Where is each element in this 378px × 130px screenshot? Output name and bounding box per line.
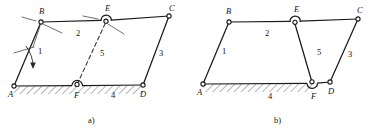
panel-b-link-label-2: 2 bbox=[265, 28, 269, 38]
panel-b-link-2-left bbox=[229, 21, 290, 22]
panel-a-annotation-E bbox=[83, 16, 124, 34]
panel-b-ground-hatch bbox=[203, 84, 312, 92]
panel-a-link-label-2: 2 bbox=[76, 28, 80, 38]
panel-a-link-label-5: 5 bbox=[100, 48, 104, 58]
panel-b: A B C D E F 1 2 3 4 5 b) bbox=[196, 4, 363, 125]
panel-a-rotation-arrow bbox=[14, 46, 36, 69]
panel-a-label-C: C bbox=[169, 3, 175, 13]
panel-b-label-F: F bbox=[310, 91, 317, 101]
panel-a-label-F: F bbox=[73, 90, 80, 100]
panel-b-pin-C bbox=[356, 17, 360, 21]
linkage-diagram-svg: A B C D E F 1 2 3 4 5 a) bbox=[0, 0, 378, 130]
panel-a-pin-D bbox=[141, 83, 145, 87]
panel-b-pin-D bbox=[328, 80, 332, 84]
panel-a-label-A: A bbox=[7, 89, 14, 99]
panel-a-link-1 bbox=[14, 22, 41, 86]
panel-a-label-B: B bbox=[39, 6, 44, 16]
panel-b-link-label-3: 3 bbox=[348, 49, 352, 59]
panel-b-link-5 bbox=[295, 24, 312, 81]
panel-a-link-label-1: 1 bbox=[38, 46, 42, 56]
panel-a-pin-F bbox=[75, 82, 79, 86]
panel-a-pin-C bbox=[167, 14, 171, 18]
panel-a-caption: a) bbox=[88, 115, 95, 125]
panel-b-link-2-right bbox=[300, 19, 358, 21]
panel-b-label-D: D bbox=[327, 86, 335, 96]
panel-b-link-label-5: 5 bbox=[317, 47, 321, 57]
panel-b-pin-B bbox=[227, 20, 231, 24]
panel-a-pin-B bbox=[39, 20, 43, 24]
panel-a-link-2-right bbox=[111, 16, 169, 20]
panel-b-link-3 bbox=[330, 19, 358, 82]
panel-b-pin-A bbox=[201, 82, 205, 86]
panel-b-caption: b) bbox=[274, 115, 281, 125]
panel-a-link-label-3: 3 bbox=[159, 48, 163, 58]
panel-b-pin-F bbox=[310, 80, 314, 84]
panel-a-label-E: E bbox=[104, 3, 111, 13]
panel-a-link-3 bbox=[143, 16, 169, 85]
panel-b-ground-line bbox=[203, 83, 307, 84]
panel-a-pin-A bbox=[12, 84, 16, 88]
panel-a: A B C D E F 1 2 3 4 5 a) bbox=[7, 3, 175, 125]
panel-b-label-A: A bbox=[196, 87, 203, 97]
panel-b-link-label-4: 4 bbox=[268, 91, 273, 101]
panel-a-ground-right bbox=[82, 85, 143, 86]
panel-b-pin-E bbox=[293, 20, 297, 24]
panel-a-label-D: D bbox=[139, 89, 147, 99]
panel-b-label-B: B bbox=[226, 6, 231, 16]
panel-b-label-C: C bbox=[357, 5, 363, 15]
figure-root: A B C D E F 1 2 3 4 5 a) bbox=[0, 0, 378, 130]
panel-b-link-label-1: 1 bbox=[222, 46, 226, 56]
panel-b-label-E: E bbox=[293, 4, 300, 14]
panel-a-pin-E bbox=[104, 19, 108, 23]
panel-a-link-2-left bbox=[41, 20, 101, 22]
